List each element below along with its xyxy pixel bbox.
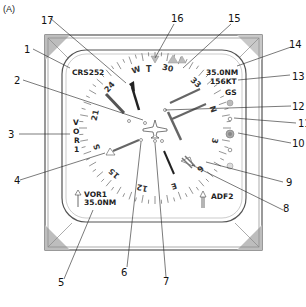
svg-text:10: 10 (292, 138, 305, 149)
svg-text:35.0NM: 35.0NM (84, 198, 116, 207)
svg-text:5: 5 (58, 277, 64, 288)
svg-text:3: 3 (8, 129, 14, 140)
svg-text:13: 13 (292, 71, 305, 82)
ground-speed: 156KT (210, 77, 237, 86)
svg-text:1: 1 (74, 145, 79, 154)
svg-text:17: 17 (41, 15, 54, 26)
svg-text:R: R (74, 136, 80, 145)
course-readout: CRS252 (72, 68, 104, 77)
svg-text:7: 7 (163, 276, 169, 287)
svg-text:15: 15 (228, 13, 241, 24)
svg-text:16: 16 (171, 13, 184, 24)
svg-text:ADF2: ADF2 (211, 192, 233, 201)
dme-distance: 35.0NM (206, 68, 238, 77)
svg-text:11: 11 (298, 118, 306, 129)
svg-text:9: 9 (286, 177, 292, 188)
svg-text:14: 14 (289, 39, 302, 50)
svg-text:12: 12 (292, 101, 305, 112)
svg-text:O: O (73, 127, 79, 136)
svg-text:6: 6 (121, 267, 127, 278)
gs-label: GS (225, 88, 237, 97)
svg-text:1: 1 (24, 44, 30, 55)
svg-text:V: V (73, 118, 79, 127)
svg-text:2: 2 (14, 75, 20, 86)
svg-text:8: 8 (283, 203, 289, 214)
figure-label: (A) (3, 4, 15, 14)
true-indicator: T (146, 65, 152, 74)
hsi-diagram: (A) W3033N36E1215S2124 T (0, 0, 306, 307)
svg-text:4: 4 (14, 175, 20, 186)
